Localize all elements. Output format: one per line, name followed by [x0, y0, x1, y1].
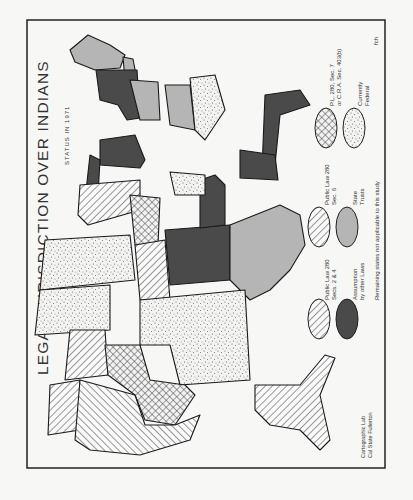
map-figure: LEGAL JURISDICTION OVER INDIANS STATUS I…	[0, 0, 413, 500]
legend-swatch-federal	[343, 108, 365, 148]
svg-text:Assumption: Assumption	[352, 269, 358, 300]
svg-text:Sec. 6: Sec. 6	[331, 187, 337, 205]
svg-text:fch: fch	[373, 37, 379, 45]
state-minnesota-cross	[130, 195, 160, 245]
svg-text:Trusts: Trusts	[359, 189, 365, 205]
svg-text:State: State	[352, 190, 358, 205]
svg-text:Public Law 280: Public Law 280	[324, 259, 330, 300]
state-iowa	[165, 225, 230, 285]
credit: Cartographic Lab Cal State Fullerton	[360, 412, 373, 458]
state-tx-dark	[240, 150, 278, 180]
svg-text:by other Laws: by other Laws	[359, 263, 365, 300]
state-maine	[70, 35, 125, 70]
map-subtitle: STATUS IN 1971	[64, 106, 70, 165]
svg-text:Cal State Fullerton: Cal State Fullerton	[367, 412, 373, 458]
svg-text:Public Law 280: Public Law 280	[324, 164, 330, 205]
svg-text:Federal: Federal	[364, 86, 370, 106]
state-wyoming	[65, 330, 108, 380]
initials: fch	[373, 37, 379, 45]
svg-text:Currently: Currently	[357, 82, 363, 106]
legend-swatch-state-trusts	[336, 207, 358, 247]
us-states-map	[35, 35, 335, 455]
legend-footnote: Remaining states not applicable to this …	[374, 181, 380, 300]
state-large-stipple	[140, 290, 250, 385]
svg-text:Secs. 2 & 4: Secs. 2 & 4	[331, 269, 337, 300]
state-washington	[48, 380, 80, 435]
state-indiana-etc	[190, 75, 225, 140]
svg-text:STATUS IN 1971: STATUS IN 1971	[64, 106, 70, 165]
state-montana	[35, 285, 110, 335]
state-nebraska	[135, 240, 170, 300]
svg-text:Cartographic Lab: Cartographic Lab	[360, 416, 366, 458]
legend-swatch-pl280-sec6	[308, 207, 330, 247]
state-ohio	[165, 85, 195, 130]
state-florida	[255, 355, 335, 450]
state-missouri-gray	[230, 205, 305, 300]
svg-text:Remaining states not applicabl: Remaining states not applicable to this …	[374, 181, 380, 300]
state-nd-sd	[40, 235, 135, 290]
legend: Public Law 280 Secs. 2 & 4 Assumption by…	[308, 49, 380, 339]
svg-text:P.L. 280, Sec. 7: P.L. 280, Sec. 7	[329, 63, 335, 106]
svg-text:or C.R.A. Sec. 403(b): or C.R.A. Sec. 403(b)	[336, 49, 342, 106]
legend-swatch-assumption	[336, 299, 358, 339]
state-michigan	[100, 135, 145, 168]
legend-swatch-pl280-sec7	[315, 108, 337, 148]
legend-swatch-pl280-secs2-4	[308, 299, 330, 339]
state-ok	[170, 172, 205, 195]
